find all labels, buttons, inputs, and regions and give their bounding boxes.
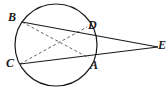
point-label-e: E	[158, 39, 166, 51]
secant-ce	[20, 47, 158, 64]
geometry-figure: B D A C E	[0, 0, 168, 91]
point-label-d: D	[88, 19, 97, 31]
point-label-b: B	[8, 11, 16, 23]
main-circle	[15, 4, 97, 86]
chord-ba-dashed	[22, 22, 89, 58]
figure-canvas	[0, 0, 168, 91]
point-label-a: A	[90, 59, 98, 71]
point-label-c: C	[6, 57, 14, 69]
